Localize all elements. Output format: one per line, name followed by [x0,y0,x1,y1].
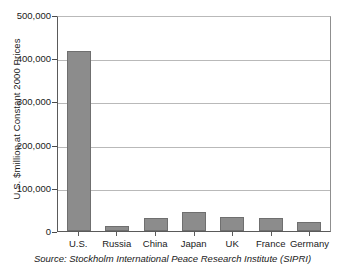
x-tick-mark [155,232,156,236]
x-tick-mark [232,232,233,236]
x-axis-label: France [251,238,289,252]
bar-uk [220,217,244,231]
bar-slot [175,17,213,231]
x-axis-label: UK [213,238,251,252]
y-tick-label: 400,000 [17,54,51,64]
x-tick-mark [271,232,272,236]
source-note: Source: Stockholm International Peace Re… [0,253,345,265]
bar-japan [182,212,206,231]
bar-slot [290,17,328,231]
y-tick-label: 500,000 [17,11,51,21]
x-axis-tick-marks [57,232,331,237]
x-axis-labels: U.S.RussiaChinaJapanUKFranceGermany [57,238,331,252]
bar-u-s [67,51,91,231]
x-tick-slot [136,232,175,237]
bar-chart-figure: U.S. $million at Constant 2000 Prices 01… [0,0,345,274]
x-tick-mark [78,232,79,236]
x-axis-label: Germany [290,238,329,252]
y-tick-label: 300,000 [17,97,51,107]
x-tick-mark [309,232,310,236]
bar-slot [213,17,251,231]
bar-slot [98,17,136,231]
bars-layer [58,17,330,231]
x-axis-label: U.S. [59,238,97,252]
bar-slot [60,17,98,231]
x-tick-slot [175,232,214,237]
bar-france [259,218,283,231]
y-tick-label: 0 [46,227,51,237]
bar-slot [251,17,289,231]
x-tick-mark [116,232,117,236]
y-tick-label: 100,000 [17,184,51,194]
x-tick-slot [252,232,291,237]
bar-china [144,218,168,231]
x-tick-slot [290,232,329,237]
bar-germany [297,222,321,231]
x-tick-slot [98,232,137,237]
x-tick-mark [194,232,195,236]
y-tick-label: 200,000 [17,141,51,151]
plot-area [57,16,331,232]
bar-slot [137,17,175,231]
x-axis-label: Japan [174,238,212,252]
y-axis-tick-labels: 0100,000200,000300,000400,000500,000 [0,0,57,240]
x-axis-label: China [136,238,174,252]
x-tick-slot [213,232,252,237]
x-axis-label: Russia [97,238,135,252]
bar-russia [105,226,129,231]
x-tick-slot [59,232,98,237]
